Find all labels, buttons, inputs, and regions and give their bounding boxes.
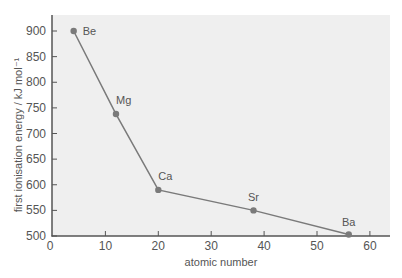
x-tick-label: 10 — [99, 239, 113, 253]
point-label-ba: Ba — [342, 216, 356, 228]
y-tick-label: 800 — [26, 75, 46, 89]
x-axis-title: atomic number — [185, 256, 258, 268]
y-tick-label: 700 — [26, 127, 46, 141]
x-tick-label: 60 — [363, 239, 377, 253]
chart: 5005506006507007508008509000102030405060… — [0, 0, 402, 278]
data-point-sr — [250, 207, 256, 213]
x-tick-label: 20 — [152, 239, 166, 253]
y-tick-label: 500 — [26, 229, 46, 243]
x-tick-label: 50 — [310, 239, 324, 253]
point-label-be: Be — [83, 25, 96, 37]
point-label-ca: Ca — [158, 170, 173, 182]
y-tick-label: 850 — [26, 50, 46, 64]
x-tick-label: 40 — [257, 239, 271, 253]
point-label-sr: Sr — [248, 191, 259, 203]
x-tick-label: 0 — [47, 239, 54, 253]
data-point-ca — [155, 187, 161, 193]
y-tick-label: 600 — [26, 178, 46, 192]
point-label-mg: Mg — [116, 94, 131, 106]
data-point-ba — [346, 231, 352, 237]
x-tick-label: 30 — [205, 239, 219, 253]
data-point-mg — [113, 111, 119, 117]
y-tick-label: 750 — [26, 101, 46, 115]
y-tick-label: 900 — [26, 24, 46, 38]
y-axis-title: first ionisation energy / kJ mol⁻¹ — [12, 57, 24, 212]
y-tick-label: 650 — [26, 152, 46, 166]
y-tick-label: 550 — [26, 203, 46, 217]
data-point-be — [70, 28, 76, 34]
